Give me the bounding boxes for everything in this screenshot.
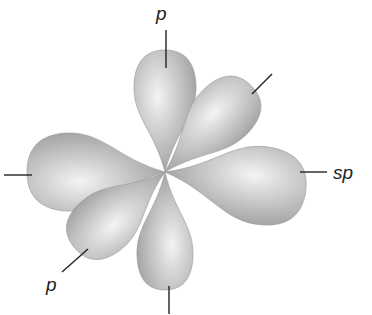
label-p-bottom-left: p <box>46 275 57 294</box>
orbital-lobes <box>27 50 311 290</box>
leader-upper-right <box>252 74 272 94</box>
label-p-top: p <box>156 4 167 23</box>
hybrid-orbital-diagram <box>0 0 372 315</box>
leader-p-bottom-left <box>62 249 88 272</box>
label-sp-right: sp <box>333 163 353 182</box>
